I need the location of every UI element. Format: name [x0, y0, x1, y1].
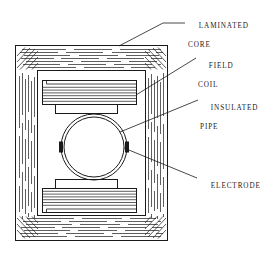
hatch-right-band — [149, 73, 164, 219]
pipe-outer-circle — [61, 114, 127, 180]
field-coil-bottom — [43, 180, 137, 213]
callout-insulated-pipe-line1: INSULATED — [211, 104, 259, 112]
callout-field-coil-line2: COIL — [198, 81, 234, 91]
hatch-top-band — [20, 50, 163, 68]
electrodes — [59, 142, 129, 153]
callout-electrode-line1: ELECTRODE — [211, 182, 261, 190]
callout-label-electrode: ELECTRODE — [200, 172, 261, 201]
coil-top-tab — [56, 105, 118, 114]
hatch-bottom-band — [20, 219, 163, 237]
callout-laminated-core-line1: LAMINATED — [199, 22, 249, 30]
electrode-right — [125, 142, 129, 153]
callout-field-coil-line1: FIELD — [209, 62, 234, 70]
leader-laminated-core — [119, 23, 185, 46]
field-coil-top — [43, 81, 137, 114]
electrode-left — [59, 142, 63, 153]
pipe-inner-circle — [64, 117, 124, 177]
hatch-left-band — [20, 73, 35, 219]
coil-bottom-tab — [56, 180, 118, 189]
insulated-pipe — [61, 114, 127, 180]
callout-label-insulated-pipe: INSULATED PIPE — [200, 94, 258, 151]
flowmeter-diagram: LAMINATED CORE FIELD COIL INSULATED PIPE… — [0, 0, 267, 253]
callout-laminated-core-line2: CORE — [188, 41, 249, 51]
callout-insulated-pipe-line2: PIPE — [200, 123, 258, 133]
